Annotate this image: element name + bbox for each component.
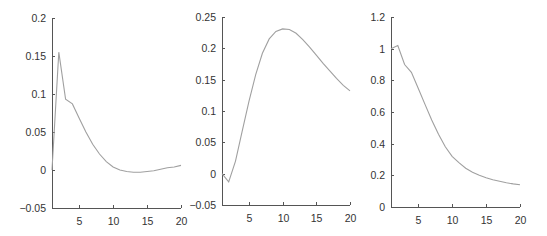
y-tick-label: 0.25	[196, 11, 217, 23]
x-tick-label: 10	[108, 215, 120, 227]
y-tick-label: −0.05	[189, 199, 216, 211]
y-tick-label: 1	[379, 43, 385, 55]
x-tick-label: 15	[481, 214, 493, 226]
chart-figure: −0.0500.050.10.150.25101520−0.0500.050.1…	[0, 0, 547, 236]
x-tick-label: 5	[77, 215, 83, 227]
y-tick-label: 0	[210, 168, 216, 180]
y-tick-label: 0.1	[201, 105, 216, 117]
y-tick-label: 0.4	[370, 138, 385, 150]
y-tick-label: 0	[40, 164, 46, 176]
axes-frame	[53, 18, 182, 209]
x-tick-label: 20	[345, 212, 357, 224]
y-tick-label: 0.2	[31, 12, 46, 24]
x-tick-label: 20	[515, 214, 527, 226]
x-tick-label: 15	[311, 212, 323, 224]
axes-frame	[223, 17, 351, 206]
subplot-1: −0.0500.050.10.150.25101520	[19, 12, 187, 227]
x-tick-label: 15	[142, 215, 154, 227]
y-tick-label: 0.05	[196, 136, 217, 148]
y-tick-label: 0.15	[196, 74, 217, 86]
x-tick-label: 10	[447, 214, 459, 226]
y-tick-label: 0.1	[31, 88, 46, 100]
subplot-3: 00.20.40.60.811.25101520	[370, 11, 526, 226]
y-tick-label: 0	[379, 201, 385, 213]
y-tick-label: 0.2	[201, 42, 216, 54]
axes-frame	[392, 17, 521, 208]
y-tick-label: 0.8	[370, 74, 385, 86]
x-tick-label: 5	[416, 214, 422, 226]
x-tick-label: 5	[247, 212, 253, 224]
y-tick-label: 0.2	[370, 169, 385, 181]
x-tick-label: 10	[278, 212, 290, 224]
x-tick-label: 20	[176, 215, 188, 227]
data-line	[391, 46, 520, 185]
y-tick-label: 0.05	[26, 126, 47, 138]
data-line	[222, 29, 350, 182]
y-tick-label: 0.15	[26, 50, 47, 62]
y-tick-label: −0.05	[19, 202, 46, 214]
subplot-2: −0.0500.050.10.150.20.255101520	[189, 11, 356, 224]
y-tick-label: 1.2	[370, 11, 385, 23]
data-line	[52, 52, 181, 172]
y-tick-label: 0.6	[370, 106, 385, 118]
